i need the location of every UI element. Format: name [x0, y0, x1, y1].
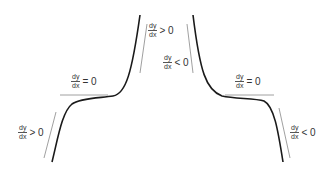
label-right-flat: dydx = 0	[235, 73, 261, 90]
label-right-upper: dydx < 0	[163, 54, 189, 71]
label-left-lower: dydx > 0	[18, 124, 44, 141]
label-left-upper: dydx > 0	[148, 22, 174, 39]
tangent-left-upper	[140, 24, 147, 73]
label-right-lower: dydx < 0	[290, 124, 316, 141]
label-left-flat: dydx = 0	[71, 73, 97, 90]
